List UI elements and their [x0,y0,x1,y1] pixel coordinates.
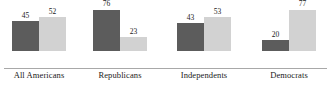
bar-light [204,17,231,51]
bar-value-label: 20 [272,31,280,39]
bar-pair: 45 52 [0,0,78,51]
bar-item: 43 [177,0,204,51]
bar-pair: 76 23 [81,0,159,51]
bar-pair: 43 53 [165,0,243,51]
x-axis-baseline [4,68,327,69]
bar-light [289,10,316,52]
bar-group-democrats: 20 77 Democrats [250,0,328,51]
category-label-independents: Independents [165,71,243,80]
bar-value-label: 76 [103,0,111,8]
category-label-all-americans: All Americans [0,71,78,80]
bar-dark [262,40,289,51]
bar-value-label: 52 [49,8,57,16]
bar-value-label: 45 [22,12,30,20]
bar-value-label: 23 [130,28,138,36]
grouped-bar-chart: 45 52 All Americans 76 23 [0,0,331,86]
bar-value-label: 53 [214,8,222,16]
bar-item: 53 [204,0,231,51]
bar-item: 23 [120,0,147,51]
bar-dark [12,21,39,51]
bar-pair: 20 77 [250,0,328,51]
category-label-republicans: Republicans [81,71,159,80]
bar-item: 20 [262,0,289,51]
category-label-democrats: Democrats [250,71,328,80]
bar-item: 45 [12,0,39,51]
bar-dark [93,10,120,52]
bar-light [39,17,66,51]
bar-group-republicans: 76 23 Republicans [81,0,159,51]
bar-item: 76 [93,0,120,51]
bar-light [120,37,147,51]
bar-item: 52 [39,0,66,51]
bar-item: 77 [289,0,316,51]
bar-dark [177,23,204,51]
bar-value-label: 77 [299,0,307,8]
bar-group-all-americans: 45 52 All Americans [0,0,78,51]
plot-area: 45 52 All Americans 76 23 [0,0,331,69]
bar-value-label: 43 [187,14,195,22]
bar-group-independents: 43 53 Independents [165,0,243,51]
